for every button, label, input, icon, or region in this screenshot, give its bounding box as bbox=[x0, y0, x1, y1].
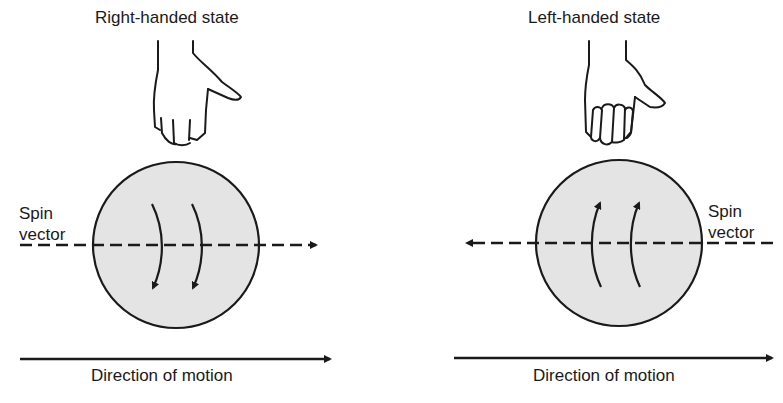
spin-label-line1: Spin bbox=[708, 201, 754, 222]
spin-label: Spin vector bbox=[19, 203, 65, 245]
panel-right-handed: Right-handed state Spin vector Dire bbox=[0, 0, 390, 403]
right-handed-diagram bbox=[0, 0, 390, 403]
spin-label-line1: Spin bbox=[19, 203, 65, 224]
right-hand-icon bbox=[154, 41, 241, 145]
spin-label-line2: vector bbox=[19, 224, 65, 245]
panel-left-handed: Left-handed state Spin vector bbox=[390, 0, 783, 403]
left-hand-icon bbox=[585, 41, 665, 144]
spin-label: Spin vector bbox=[708, 201, 754, 243]
motion-caption: Direction of motion bbox=[91, 366, 233, 386]
motion-caption: Direction of motion bbox=[533, 366, 675, 386]
spin-label-line2: vector bbox=[708, 222, 754, 243]
